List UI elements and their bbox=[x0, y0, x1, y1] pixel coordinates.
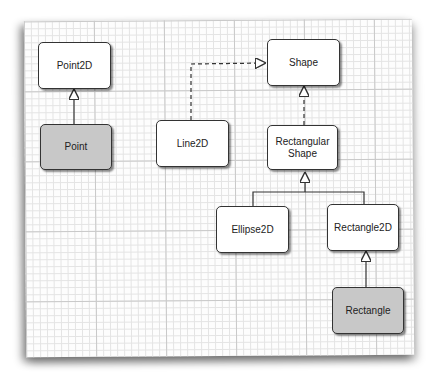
node-ellipse2d: Ellipse2D bbox=[216, 206, 289, 253]
node-label: Line2D bbox=[177, 138, 209, 150]
node-label: Rectangle bbox=[345, 305, 390, 317]
node-label: Shape bbox=[289, 57, 318, 69]
node-label: Ellipse2D bbox=[231, 224, 273, 236]
node-rectangular-shape: Rectangular Shape bbox=[267, 125, 338, 170]
node-label: Point bbox=[65, 141, 88, 153]
node-point: Point bbox=[40, 124, 112, 170]
edge-line2d-shape bbox=[191, 63, 265, 120]
node-label: Point2D bbox=[57, 60, 93, 72]
node-line2d: Line2D bbox=[156, 120, 229, 167]
node-label: Rectangular Shape bbox=[276, 136, 330, 160]
node-shape: Shape bbox=[267, 39, 340, 86]
node-rectangle: Rectangle bbox=[332, 287, 404, 334]
node-rectangle2d: Rectangle2D bbox=[327, 204, 399, 251]
node-label: Rectangle2D bbox=[334, 222, 392, 234]
node-point2d: Point2D bbox=[38, 42, 111, 89]
